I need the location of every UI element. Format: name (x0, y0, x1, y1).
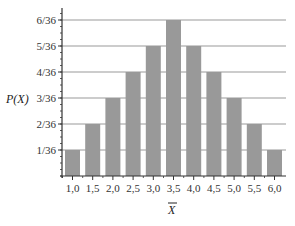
y-tick-label: 6/36 (36, 14, 56, 26)
y-tick-label: 1/36 (36, 144, 56, 156)
y-tick-label: 3/36 (36, 92, 56, 104)
bar-3,0 (146, 46, 161, 176)
y-tick-label: 4/36 (36, 66, 56, 78)
y-tick-label: 2/36 (36, 118, 56, 130)
y-axis-title: P(X) (5, 92, 29, 106)
probability-bar-chart: 1/362/363/364/365/366/36 1,01,52,02,53,0… (0, 0, 295, 226)
x-axis-title: X (167, 203, 177, 217)
bar-2,0 (105, 98, 120, 176)
x-tick-label: 3,5 (167, 182, 181, 194)
x-tick-labels: 1,01,52,02,53,03,54,04,55,05,56,0 (66, 182, 282, 194)
bar-6,0 (267, 150, 282, 176)
y-tick-labels: 1/362/363/364/365/366/36 (36, 14, 56, 156)
x-tick-label: 4,0 (187, 182, 201, 194)
x-tick-label: 2,5 (126, 182, 140, 194)
x-tick-label: 5,0 (227, 182, 241, 194)
bar-4,0 (186, 46, 201, 176)
x-tick-label: 4,5 (207, 182, 221, 194)
x-tick-label: 6,0 (268, 182, 282, 194)
x-tick-label: 1,0 (66, 182, 80, 194)
x-tick-label: 2,0 (106, 182, 120, 194)
x-tick-label: 5,5 (247, 182, 261, 194)
bar-5,0 (227, 98, 242, 176)
x-tick-label: 1,5 (86, 182, 100, 194)
x-tick-label: 3,0 (146, 182, 160, 194)
svg-text:X: X (167, 203, 176, 217)
bar-1,0 (65, 150, 80, 176)
y-tick-label: 5/36 (36, 40, 56, 52)
